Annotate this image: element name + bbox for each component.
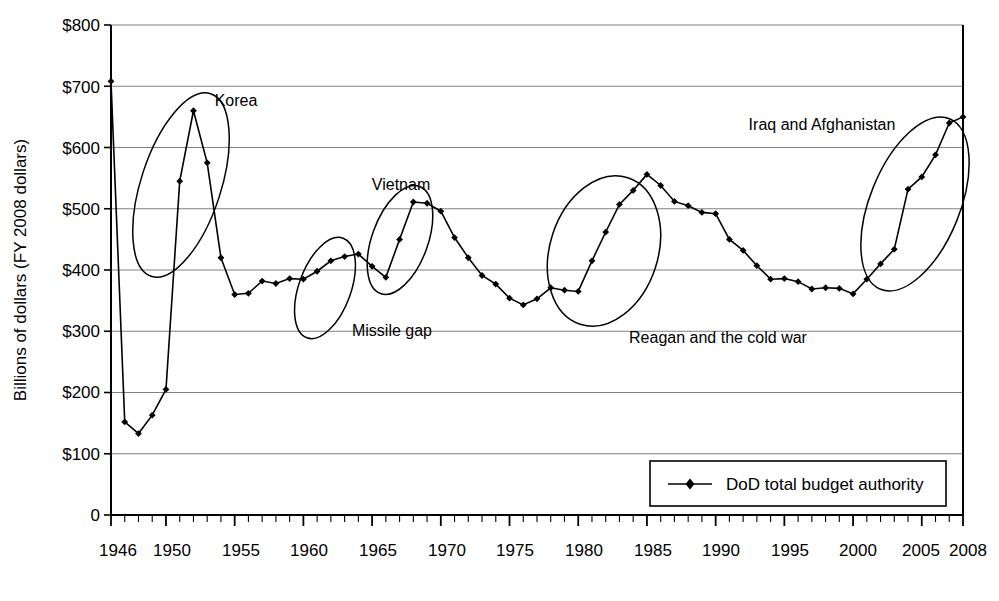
- chart-container: $800 $700 $600 $500 $400 $300 $200 $100 …: [0, 0, 999, 601]
- chart-background: [0, 0, 999, 601]
- x-tick-label-1946: 1946: [99, 541, 137, 560]
- annotation-iraq-afghanistan: Iraq and Afghanistan: [749, 116, 896, 133]
- x-tick-label-1985: 1985: [634, 541, 672, 560]
- y-tick-label-0: 0: [91, 506, 100, 525]
- x-tick-label-1980: 1980: [565, 541, 603, 560]
- x-tick-label-2000: 2000: [839, 541, 877, 560]
- x-tick-label-1960: 1960: [290, 541, 328, 560]
- y-tick-label-800: $800: [62, 16, 100, 35]
- x-tick-label-1950: 1950: [153, 541, 191, 560]
- annotation-vietnam: Vietnam: [372, 176, 430, 193]
- x-tick-label-1990: 1990: [702, 541, 740, 560]
- x-tick-label-1965: 1965: [359, 541, 397, 560]
- y-tick-label-700: $700: [62, 78, 100, 97]
- annotation-korea: Korea: [215, 92, 258, 109]
- y-axis-title: Billions of dollars (FY 2008 dollars): [11, 139, 30, 401]
- x-tick-label-1955: 1955: [222, 541, 260, 560]
- x-tick-label-1970: 1970: [428, 541, 466, 560]
- annotation-missile-gap: Missile gap: [352, 322, 432, 339]
- x-tick-label-1995: 1995: [771, 541, 809, 560]
- y-tick-label-200: $200: [62, 383, 100, 402]
- x-tick-label-1975: 1975: [496, 541, 534, 560]
- y-tick-label-300: $300: [62, 322, 100, 341]
- legend-series-label: DoD total budget authority: [726, 475, 924, 494]
- y-tick-label-600: $600: [62, 139, 100, 158]
- y-tick-label-100: $100: [62, 445, 100, 464]
- x-tick-label-2005: 2005: [902, 541, 940, 560]
- legend[interactable]: DoD total budget authority: [650, 461, 946, 506]
- x-tick-label-2008: 2008: [949, 541, 987, 560]
- annotation-reagan: Reagan and the cold war: [629, 329, 808, 346]
- y-tick-labels: $800 $700 $600 $500 $400 $300 $200 $100 …: [62, 16, 100, 525]
- y-tick-label-500: $500: [62, 200, 100, 219]
- y-tick-label-400: $400: [62, 261, 100, 280]
- defense-budget-line-chart: $800 $700 $600 $500 $400 $300 $200 $100 …: [0, 0, 999, 601]
